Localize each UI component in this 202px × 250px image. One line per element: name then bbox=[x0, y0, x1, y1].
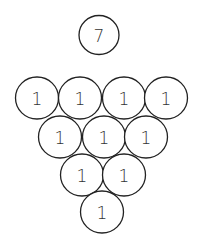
ball-label: 1 bbox=[119, 166, 130, 186]
ball: 1 bbox=[145, 77, 188, 119]
ball: 1 bbox=[81, 191, 124, 233]
ball-label: 1 bbox=[55, 128, 66, 148]
ball: 1 bbox=[39, 116, 82, 158]
ball-label: 1 bbox=[141, 128, 152, 148]
ball-label: 1 bbox=[161, 89, 172, 109]
top-ball: 7 bbox=[79, 16, 119, 55]
ball-label: 1 bbox=[75, 89, 86, 109]
ball-row-3: 11 bbox=[61, 154, 146, 196]
ball: 1 bbox=[103, 77, 146, 119]
ball-label: 1 bbox=[119, 89, 130, 109]
ball-triangle-diagram: 7 1111111111 bbox=[0, 0, 202, 250]
top-ball-label: 7 bbox=[94, 26, 105, 46]
ball-label: 1 bbox=[97, 203, 108, 223]
ball: 1 bbox=[103, 154, 146, 196]
ball-label: 1 bbox=[99, 128, 110, 148]
ball-row-1: 1111 bbox=[16, 77, 188, 119]
ball: 1 bbox=[16, 77, 59, 119]
ball: 1 bbox=[59, 77, 102, 119]
ball: 1 bbox=[61, 154, 104, 196]
ball-row-4: 1 bbox=[81, 191, 124, 233]
ball: 1 bbox=[83, 116, 126, 158]
ball-row-2: 111 bbox=[39, 116, 168, 158]
ball-label: 1 bbox=[77, 166, 88, 186]
ball-triangle: 1111111111 bbox=[16, 77, 188, 233]
ball-label: 1 bbox=[32, 89, 43, 109]
ball: 1 bbox=[125, 116, 168, 158]
